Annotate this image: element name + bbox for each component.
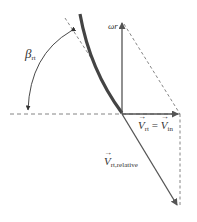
v-relative-label: Vrt,relative [104,156,138,169]
beta-angle-arc [28,31,71,110]
velocity-triangle-diagram [0,0,197,222]
v-rt-equals-v-in-label: Vrt = Vin [138,120,173,133]
beta-rt-label: βrt [25,47,36,62]
triangle-hypotenuse-dashed [124,24,180,114]
omega-r-label: ωr [108,22,118,31]
